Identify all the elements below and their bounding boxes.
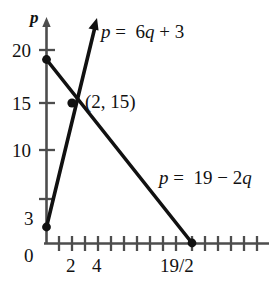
demand-eq-coefficient: − 2 [217,167,242,188]
y-tick-label-3: 3 [24,209,34,228]
p-axis-label: p [30,9,39,26]
demand-x-intercept-dot [188,239,197,248]
supply-eq-p: p [101,21,111,42]
demand-intercept-dot [42,55,51,64]
x-tick-label-2: 2 [66,256,76,275]
origin-label: 0 [24,246,34,265]
y-tick-label-10: 10 [12,141,31,160]
supply-equation-label: p = 6q + 3 [101,22,184,41]
demand-line [47,60,193,244]
demand-eq-variable: q [242,167,252,188]
equilibrium-dot [67,98,76,107]
supply-line-arrowhead [89,18,99,31]
supply-eq-constant: + 3 [159,21,184,42]
y-tick-label-20: 20 [12,41,31,60]
supply-line [47,29,95,227]
demand-eq-p: p [159,167,169,188]
supply-eq-coefficient: 6 [135,21,145,42]
coordinate-plane [0,0,269,283]
demand-eq-constant: 19 [193,167,212,188]
supply-eq-equals: = [115,21,126,42]
graph-figure: p 20 15 10 3 0 2 4 19/2 p = 6q + 3 p = 1… [0,0,269,283]
demand-eq-equals: = [173,167,184,188]
y-axis-arrowhead [42,17,50,27]
demand-equation-label: p = 19 − 2q [159,168,252,187]
x-tick-label-4: 4 [92,256,102,275]
y-tick-label-15: 15 [12,94,31,113]
x-tick-label-19-over-2: 19/2 [160,256,194,275]
equilibrium-point-label: (2, 15) [85,92,136,111]
supply-intercept-dot [42,223,51,232]
